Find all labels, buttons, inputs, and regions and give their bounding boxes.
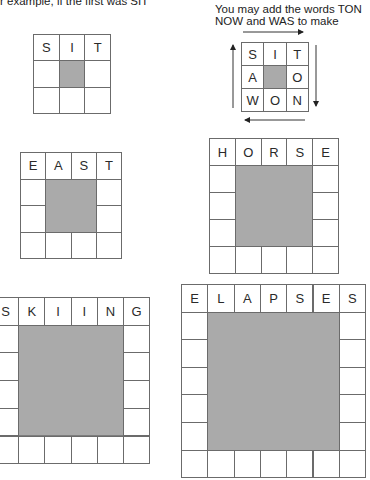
arrow-right-icon (0, 0, 370, 480)
